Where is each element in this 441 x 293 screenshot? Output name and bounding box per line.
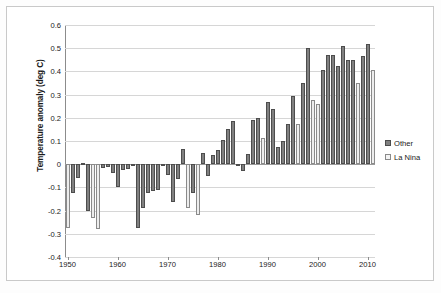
- bar: [356, 83, 360, 164]
- y-tick-label: -0.1: [17, 183, 61, 192]
- gridline: [65, 211, 375, 212]
- bar: [296, 124, 300, 165]
- bar: [306, 48, 310, 164]
- bar: [111, 164, 115, 173]
- gridline: [65, 257, 375, 258]
- bar: [221, 140, 225, 164]
- y-axis-tick-labels: 0.60.50.40.30.20.10-0.1-0.2-0.3-0.4: [15, 25, 61, 257]
- y-tick-label: 0.3: [17, 90, 61, 99]
- bar: [276, 147, 280, 164]
- bar: [86, 164, 90, 210]
- y-tick-label: 0.4: [17, 67, 61, 76]
- x-tick-mark: [68, 257, 69, 260]
- plot-area: [65, 25, 375, 257]
- legend-swatch-other-icon: [385, 140, 391, 146]
- bar: [216, 150, 220, 164]
- bar: [226, 129, 230, 164]
- bar: [291, 96, 295, 164]
- x-tick-label: 1970: [159, 260, 176, 269]
- bar: [261, 138, 265, 165]
- bar: [66, 164, 70, 228]
- bar: [106, 164, 110, 166]
- bar: [156, 164, 160, 190]
- bar: [246, 154, 250, 164]
- bar: [316, 104, 320, 164]
- y-tick-label: 0.2: [17, 113, 61, 122]
- bar: [326, 55, 330, 164]
- chart-legend: Other La Nina: [385, 138, 441, 166]
- bar: [131, 164, 135, 166]
- bar: [71, 164, 75, 193]
- bar: [151, 164, 155, 191]
- bar: [91, 164, 95, 217]
- bar: [361, 56, 365, 164]
- y-tick-label: 0.1: [17, 137, 61, 146]
- bar: [311, 100, 315, 164]
- legend-item-other: Other: [385, 138, 441, 148]
- chart-figure: Temperature anomaly (deg C) 0.60.50.40.3…: [0, 0, 441, 293]
- bar: [346, 60, 350, 164]
- bar: [266, 102, 270, 165]
- bar: [236, 164, 240, 166]
- x-tick-label: 1980: [209, 260, 226, 269]
- bar: [121, 164, 125, 170]
- bar: [301, 83, 305, 164]
- bar: [251, 120, 255, 164]
- bar: [96, 164, 100, 229]
- gridline: [65, 48, 375, 49]
- bar: [126, 164, 130, 169]
- x-tick-label: 1990: [259, 260, 276, 269]
- y-tick-label: 0.6: [17, 21, 61, 30]
- y-tick-label: 0.5: [17, 44, 61, 53]
- legend-label-other: Other: [394, 139, 413, 148]
- bar: [101, 164, 105, 167]
- bar: [191, 164, 195, 193]
- bar: [321, 70, 325, 164]
- bar: [196, 164, 200, 215]
- bar: [186, 164, 190, 208]
- chart-frame: Temperature anomaly (deg C) 0.60.50.40.3…: [6, 6, 434, 281]
- bar: [201, 153, 205, 165]
- bar: [256, 118, 260, 164]
- legend-swatch-la-nina-icon: [385, 154, 391, 160]
- bar: [166, 164, 170, 174]
- gridline: [65, 25, 375, 26]
- bar: [176, 164, 180, 179]
- bar: [231, 121, 235, 164]
- x-tick-mark: [118, 257, 119, 260]
- bar: [336, 66, 340, 165]
- x-tick-mark: [168, 257, 169, 260]
- bar: [116, 164, 120, 187]
- x-tick-mark: [368, 257, 369, 260]
- bar: [81, 163, 85, 165]
- legend-item-la-nina: La Nina: [385, 152, 441, 162]
- gridline: [65, 187, 375, 188]
- bar: [371, 70, 375, 164]
- x-tick-label: 1950: [59, 260, 76, 269]
- bar: [141, 164, 145, 208]
- x-axis-tick-labels: 1950196019701980199020002010: [65, 260, 375, 276]
- bar: [341, 46, 345, 164]
- bar: [366, 44, 370, 165]
- x-tick-label: 1960: [109, 260, 126, 269]
- y-tick-label: -0.4: [17, 253, 61, 262]
- bar: [171, 164, 175, 202]
- x-tick-label: 2010: [359, 260, 376, 269]
- bar: [271, 109, 275, 165]
- bar: [161, 164, 165, 166]
- bar: [331, 55, 335, 164]
- bar: [206, 164, 210, 176]
- x-tick-label: 2000: [309, 260, 326, 269]
- bar: [211, 155, 215, 164]
- x-tick-mark: [218, 257, 219, 260]
- y-tick-label: -0.2: [17, 206, 61, 215]
- bar: [281, 141, 285, 164]
- bar: [76, 164, 80, 178]
- bar: [136, 164, 140, 228]
- bar: [241, 164, 245, 171]
- y-tick-label: -0.3: [17, 229, 61, 238]
- bar: [351, 60, 355, 164]
- x-tick-mark: [318, 257, 319, 260]
- x-tick-mark: [268, 257, 269, 260]
- bar: [286, 124, 290, 165]
